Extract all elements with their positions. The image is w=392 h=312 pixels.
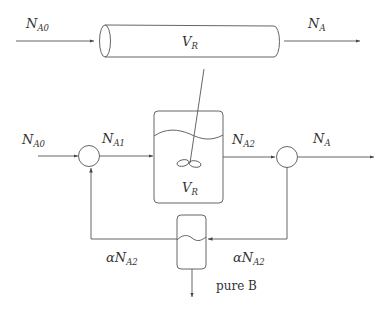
split-stream-label: αNA2 — [233, 250, 265, 267]
recycle-stream-line — [91, 168, 177, 239]
liquid-level — [154, 130, 223, 139]
mixer-node — [79, 146, 100, 167]
mixed-feed-label: NA1 — [101, 131, 125, 148]
recycle-stream-label: αNA2 — [106, 250, 138, 267]
process-flow-diagram: NA0 VR NA NA0 NA1 VR NA2 — [0, 0, 392, 312]
cstr-section: NA0 NA1 VR NA2 NA αNA2 αNA2 pure B — [21, 69, 374, 297]
impeller-blade-right — [189, 160, 202, 168]
splitter-node — [277, 147, 298, 168]
pfr-inlet-label: NA0 — [25, 16, 50, 33]
separator-vessel — [177, 215, 206, 269]
separator-interface — [177, 236, 206, 241]
product-label: NA — [312, 131, 331, 148]
reactor-outlet-label: NA2 — [231, 132, 255, 149]
pfr-outlet-label: NA — [307, 16, 326, 33]
stirrer-shaft — [190, 69, 204, 163]
impeller-blade-left — [176, 159, 189, 168]
feed-label: NA0 — [21, 132, 46, 149]
cstr-volume-label: VR — [182, 180, 198, 197]
pfr-volume-label: VR — [182, 34, 198, 51]
pfr-section: NA0 VR NA — [16, 16, 360, 57]
pure-b-label: pure B — [216, 279, 257, 293]
